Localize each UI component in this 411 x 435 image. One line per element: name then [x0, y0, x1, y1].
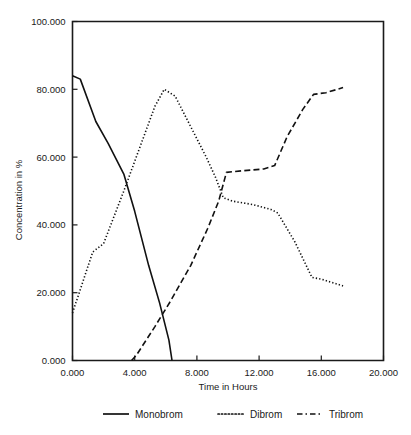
x-tick-label: 4.000 [123, 367, 147, 378]
y-tick-label: 20.000 [36, 287, 65, 298]
x-tick-label: 20.000 [369, 367, 398, 378]
chart-container: 0.0004.0008.00012.00016.00020.000 0.0002… [0, 0, 411, 435]
legend-label-dibrom: Dibrom [250, 409, 282, 420]
line-chart: 0.0004.0008.00012.00016.00020.000 0.0002… [0, 0, 411, 435]
chart-legend: MonobromDibromTribrom [103, 409, 363, 420]
legend-label-monobrom: Monobrom [135, 409, 183, 420]
x-tick-label: 8.000 [185, 367, 209, 378]
x-tick-label: 12.000 [245, 367, 274, 378]
y-tick-label: 40.000 [36, 219, 65, 230]
y-axis-tick-labels: 0.00020.00040.00060.00080.000100.000 [31, 16, 65, 366]
x-axis-tick-labels: 0.0004.0008.00012.00016.00020.000 [61, 367, 398, 378]
series-line-dibrom [73, 89, 344, 313]
y-tick-label: 60.000 [36, 152, 65, 163]
legend-label-tribrom: Tribrom [329, 409, 363, 420]
x-tick-label: 0.000 [61, 367, 85, 378]
data-series-group [73, 76, 344, 361]
plot-border [73, 22, 384, 361]
y-tick-label: 0.000 [42, 355, 66, 366]
x-tick-label: 16.000 [307, 367, 336, 378]
series-line-monobrom [73, 76, 173, 361]
y-tick-label: 100.000 [31, 16, 65, 27]
y-axis-title: Concentration in % [13, 159, 24, 240]
y-tick-label: 80.000 [36, 84, 65, 95]
x-axis-title: Time in Hours [199, 381, 258, 392]
plot-frame [73, 22, 384, 361]
